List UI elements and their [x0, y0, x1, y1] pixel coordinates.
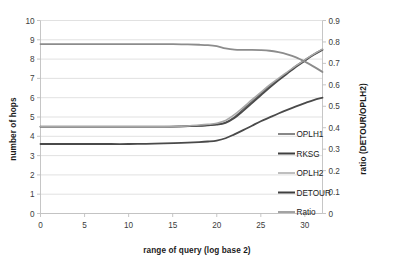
x-axis-ticks: 051015202530 [38, 214, 310, 230]
legend-label-detour: DETOUR [297, 189, 332, 198]
y-tick-label-right: 0.8 [329, 38, 341, 47]
y-tick-label-right: 0 [329, 210, 334, 219]
x-tick-label: 25 [256, 221, 266, 230]
y-tick-label-left: 4 [30, 132, 35, 141]
series-line-ratio [41, 44, 323, 72]
x-tick-label: 20 [212, 221, 222, 230]
y-tick-label-right: 0.6 [329, 81, 341, 90]
y-tick-label-left: 0 [30, 210, 35, 219]
chart-legend: OPLH1RKSGOPLH2DETOURRatio [278, 130, 331, 217]
y-tick-label-left: 6 [30, 94, 35, 103]
legend-label-oplh2: OPLH2 [297, 169, 324, 178]
y-tick-label-left: 7 [30, 74, 35, 83]
y-tick-label-right: 0.3 [329, 145, 341, 154]
legend-label-oplh1: OPLH1 [297, 130, 324, 139]
chart-container: number of hops ratio (DETOUR/OPLH2) rang… [0, 0, 394, 257]
y-tick-label-left: 5 [30, 113, 35, 122]
x-tick-label: 30 [300, 221, 310, 230]
legend-label-rksg: RKSG [297, 150, 320, 159]
y-tick-label-left: 9 [30, 36, 35, 45]
legend-label-ratio: Ratio [297, 208, 317, 217]
series-line-detour [41, 98, 323, 144]
y-tick-label-left: 1 [30, 190, 35, 199]
y-tick-label-right: 0.2 [329, 167, 341, 176]
y-tick-label-left: 8 [30, 55, 35, 64]
y-tick-label-right: 0.7 [329, 59, 341, 68]
series-line-rksg [41, 50, 323, 127]
y-axis-left-ticks: 012345678910 [25, 17, 40, 219]
x-tick-label: 0 [38, 221, 43, 230]
y-tick-label-left: 3 [30, 152, 35, 161]
plot-area: 012345678910 00.10.20.30.40.50.60.70.80.… [0, 0, 394, 257]
y-tick-label-right: 0.4 [329, 124, 341, 133]
x-tick-label: 5 [82, 221, 87, 230]
series-line-oplh1 [41, 49, 323, 126]
series-line-oplh2 [41, 49, 323, 127]
y-tick-label-right: 0.9 [329, 17, 341, 26]
y-tick-label-right: 0.5 [329, 102, 341, 111]
y-tick-label-left: 10 [25, 17, 35, 26]
grid-lines [41, 21, 323, 214]
y-tick-label-left: 2 [30, 171, 35, 180]
x-tick-label: 10 [124, 221, 134, 230]
x-tick-label: 15 [168, 221, 178, 230]
